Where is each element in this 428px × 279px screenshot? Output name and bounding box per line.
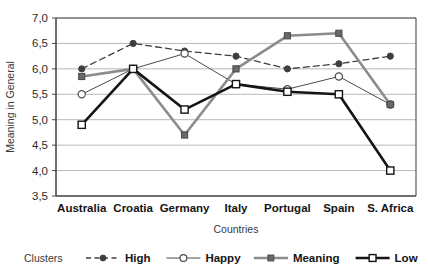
data-point [233, 66, 239, 72]
legend-marker [100, 255, 106, 261]
chart-container: 7,06,56,05,55,04,54,03,5 AustraliaCroati… [0, 0, 428, 279]
data-point [181, 106, 188, 113]
data-point [78, 121, 85, 128]
data-point [284, 66, 290, 72]
data-point [233, 53, 239, 59]
legend-marker [268, 255, 274, 261]
x-category-label: Germany [160, 202, 210, 214]
legend-label: High [125, 252, 151, 264]
legend-label: Meaning [293, 252, 340, 264]
chart-legend: ClustersHighHappyMeaningLow [24, 252, 418, 264]
legend-item-low[interactable]: Low [356, 252, 418, 264]
legend-label: Low [395, 252, 418, 264]
legend-title: Clusters [24, 252, 63, 264]
y-axis-tick-labels: 7,06,56,05,55,04,54,03,5 [32, 12, 48, 202]
data-point [78, 91, 85, 98]
data-point [284, 33, 290, 39]
x-category-label: Portugal [264, 202, 311, 214]
plot-background [56, 18, 416, 196]
x-category-label: Spain [323, 202, 354, 214]
data-point [284, 88, 291, 95]
data-point [387, 101, 393, 107]
y-tick-label: 4,0 [32, 165, 48, 177]
legend-item-high[interactable]: High [86, 252, 151, 264]
x-axis-title: Countries [214, 223, 259, 235]
x-axis-category-labels: AustraliaCroatiaGermanyItalyPortugalSpai… [57, 202, 414, 214]
data-point [335, 73, 342, 80]
data-point [181, 132, 187, 138]
y-tick-label: 5,5 [32, 88, 48, 100]
data-point [335, 91, 342, 98]
legend-item-meaning[interactable]: Meaning [254, 252, 340, 264]
legend-marker [369, 255, 376, 262]
data-point [130, 40, 136, 46]
y-axis-title: Meaning in General [4, 61, 16, 153]
y-tick-label: 6,0 [32, 63, 48, 75]
legend-label: Happy [205, 252, 241, 264]
data-point [387, 53, 393, 59]
x-category-label: Italy [224, 202, 248, 214]
data-point [336, 30, 342, 36]
x-category-label: Croatia [113, 202, 153, 214]
y-tick-label: 6,5 [32, 37, 48, 49]
data-point [181, 50, 188, 57]
y-tick-label: 5,0 [32, 114, 48, 126]
plot-background-group [56, 18, 416, 196]
y-tick-label: 4,5 [32, 139, 48, 151]
data-point [387, 167, 394, 174]
data-point [336, 61, 342, 67]
y-tick-label: 3,5 [32, 190, 48, 202]
x-category-label: Australia [57, 202, 107, 214]
legend-marker [180, 255, 187, 262]
data-point [79, 73, 85, 79]
y-tick-label: 7,0 [32, 12, 48, 24]
legend-item-happy[interactable]: Happy [166, 252, 241, 264]
line-chart: 7,06,56,05,55,04,54,03,5 AustraliaCroati… [0, 0, 428, 279]
data-point [232, 81, 239, 88]
data-point [130, 65, 137, 72]
x-category-label: S. Africa [367, 202, 414, 214]
data-point [79, 66, 85, 72]
